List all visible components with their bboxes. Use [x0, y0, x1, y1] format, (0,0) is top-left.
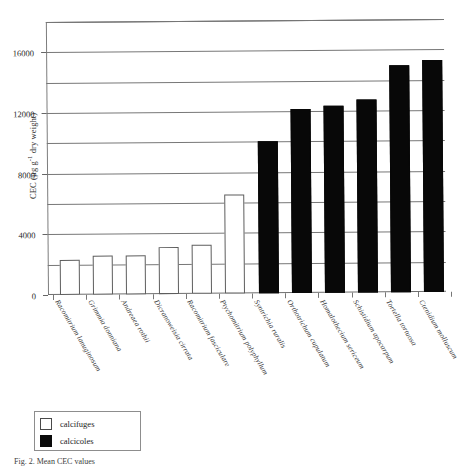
x-axis-labels: Racomitrium lanuginosumGrimmia donnianaA…	[48, 298, 448, 403]
legend-swatch-calcicoles	[40, 435, 52, 447]
bar	[257, 142, 278, 294]
bar	[323, 106, 344, 293]
y-axis-title-suffix: dry weight)	[28, 113, 38, 156]
bar	[92, 255, 112, 295]
y-axis-tick-label: 12000	[13, 109, 34, 119]
bar	[290, 109, 311, 293]
bar	[159, 247, 179, 294]
x-axis-label: Ctenidium molluscum	[418, 298, 460, 361]
legend-label-calcicoles: calcicoles	[60, 436, 94, 446]
x-axis-tick	[418, 292, 419, 297]
x-axis-tick	[451, 292, 452, 297]
x-axis-tick	[351, 293, 352, 298]
bar	[225, 195, 246, 294]
legend-label-calcifuges: calcifuges	[60, 419, 94, 429]
figure-caption: Fig. 2. Mean CEC values	[14, 457, 95, 466]
x-axis-label: Andreaea rothii	[119, 298, 152, 344]
bar	[192, 245, 212, 294]
bar	[423, 60, 445, 292]
bar	[126, 255, 146, 295]
y-axis-tick-label: 4000	[18, 230, 35, 240]
y-axis-tick-label: 0	[32, 291, 36, 301]
bar	[389, 65, 411, 293]
x-axis-label: Syntrichia ruralis	[252, 298, 288, 350]
x-axis-label: Grimmia donniana	[86, 298, 124, 353]
y-axis-title-prefix: CEC (µg g	[28, 161, 38, 199]
legend-item-calcifuges: calcifuges	[40, 416, 135, 431]
legend-item-calcicoles: calcicoles	[40, 433, 135, 448]
x-axis-label: Tortella tortuosa	[385, 298, 420, 347]
legend: calcifuges calcicoles	[34, 411, 141, 451]
bar	[59, 260, 79, 295]
y-axis-tick-label: 16000	[13, 48, 34, 58]
legend-swatch-calcifuges	[40, 418, 52, 430]
x-axis-tick	[385, 292, 386, 297]
bar-group	[46, 19, 446, 295]
plot-area: 0400080001200016000	[46, 19, 446, 295]
bar	[357, 99, 379, 293]
y-axis-title-exponent: -1	[26, 156, 33, 162]
y-axis-tick-label: 8000	[18, 170, 35, 180]
